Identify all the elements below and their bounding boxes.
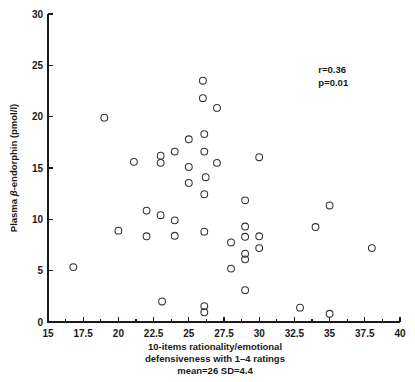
data-point <box>297 304 304 311</box>
stat-annotation-text: p=0.01 <box>318 77 349 88</box>
data-point <box>201 148 208 155</box>
data-point <box>256 233 263 240</box>
data-point <box>157 152 164 159</box>
scatter-plot-figure: 051015202530 1517.52022.52527.53032.5353… <box>0 0 415 382</box>
y-tick-label: 20 <box>32 111 44 122</box>
data-point <box>143 207 150 214</box>
x-axis-title-line-3: mean=26 SD=4.4 <box>177 365 253 376</box>
x-tick-label: 17.5 <box>73 328 93 339</box>
stat-annotation-text: r=0.36 <box>318 64 346 75</box>
data-point <box>101 114 108 121</box>
data-point <box>201 131 208 138</box>
x-axis-ticks: 1517.52022.52527.53032.53537.540 <box>42 317 406 339</box>
x-tick-label: 27.5 <box>214 328 234 339</box>
x-tick-label: 15 <box>42 328 54 339</box>
data-point <box>171 217 178 224</box>
y-tick-label: 10 <box>32 214 44 225</box>
data-point <box>368 245 375 252</box>
data-point <box>312 224 319 231</box>
y-tick-label: 15 <box>32 163 44 174</box>
data-point <box>326 202 333 209</box>
data-point <box>130 158 137 165</box>
data-point <box>185 179 192 186</box>
data-point <box>159 298 166 305</box>
x-axis-title-line-2: defensiveness with 1–4 ratings <box>145 353 285 364</box>
x-tick-label: 40 <box>394 328 406 339</box>
data-point <box>242 223 249 230</box>
data-points-group <box>70 77 375 317</box>
statistics-annotations: r=0.36p=0.01 <box>318 64 349 88</box>
data-point <box>228 265 235 272</box>
data-point <box>157 159 164 166</box>
data-point <box>199 95 206 102</box>
x-axis-title: 10-items rationality/emotional defensive… <box>145 341 285 376</box>
data-point <box>242 197 249 204</box>
axes-group <box>48 14 400 322</box>
y-axis-title: Plasma β-endorphin (pmol/l) <box>8 104 19 232</box>
data-point <box>201 191 208 198</box>
data-point <box>242 233 249 240</box>
y-tick-label: 5 <box>37 265 43 276</box>
data-point <box>143 233 150 240</box>
x-axis-title-line-1: 10-items rationality/emotional <box>148 341 282 352</box>
x-tick-label: 37.5 <box>355 328 375 339</box>
data-point <box>202 174 209 181</box>
data-point <box>228 239 235 246</box>
data-point <box>171 148 178 155</box>
data-point <box>256 154 263 161</box>
axis-spine <box>48 14 400 322</box>
data-point <box>326 310 333 317</box>
y-axis-ticks: 051015202530 <box>32 9 53 328</box>
x-tick-label: 20 <box>113 328 125 339</box>
y-tick-label: 0 <box>37 317 43 328</box>
y-axis-title-suffix: -endorphin (pmol/l) <box>8 104 19 191</box>
data-point <box>171 232 178 239</box>
x-tick-label: 30 <box>254 328 266 339</box>
data-point <box>214 105 221 112</box>
x-tick-label: 35 <box>324 328 336 339</box>
data-point <box>242 287 249 294</box>
y-tick-label: 30 <box>32 9 44 20</box>
x-tick-label: 32.5 <box>285 328 305 339</box>
chart-canvas: 051015202530 1517.52022.52527.53032.5353… <box>0 0 415 382</box>
data-point <box>199 77 206 84</box>
x-tick-label: 25 <box>183 328 195 339</box>
data-point <box>185 136 192 143</box>
data-point <box>185 164 192 171</box>
data-point <box>70 264 77 271</box>
y-axis-title-prefix: Plasma <box>8 196 19 232</box>
data-point <box>256 245 263 252</box>
data-point <box>157 212 164 219</box>
x-tick-label: 22.5 <box>144 328 164 339</box>
data-point <box>201 228 208 235</box>
data-point <box>214 159 221 166</box>
y-tick-label: 25 <box>32 60 44 71</box>
data-point <box>115 227 122 234</box>
svg-text:Plasma β-endorphin (pmol/l): Plasma β-endorphin (pmol/l) <box>8 104 19 232</box>
